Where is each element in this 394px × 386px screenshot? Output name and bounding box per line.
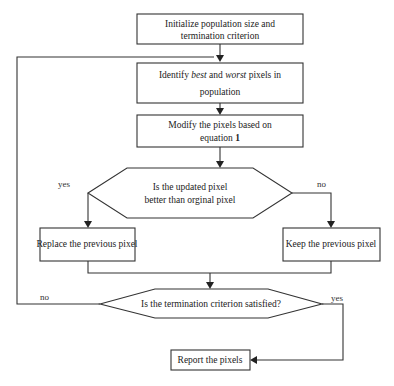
arrow-into-modify [216, 108, 224, 115]
node-replace-text: Replace the previous pixel [36, 239, 137, 249]
node-modify-line2: equation 1 [200, 133, 240, 143]
node-identify: Identify best and worst pixels in popula… [137, 63, 303, 103]
label-termination-no: no [40, 292, 50, 302]
edge-merge [88, 261, 331, 273]
arrow-into-keep [327, 221, 335, 228]
node-modify: Modify the pixels based on equation 1 [137, 115, 303, 147]
label-better-no: no [317, 179, 327, 189]
label-termination-yes: yes [331, 293, 343, 303]
node-identify-line2: population [200, 87, 241, 97]
node-identify-line1: Identify best and worst pixels in [159, 70, 281, 80]
node-initialize: Initialize population size and terminati… [137, 14, 303, 44]
node-decision-termination: Is the termination criterion satisfied? [100, 289, 322, 318]
arrow-into-report [250, 356, 257, 364]
node-decision-better-line1: Is the updated pixel [153, 182, 228, 192]
label-better-yes: yes [58, 179, 70, 189]
node-decision-better: Is the updated pixel better than orginal… [88, 168, 292, 218]
node-modify-line1: Modify the pixels based on [168, 120, 272, 130]
node-decision-termination-text: Is the termination criterion satisfied? [141, 299, 281, 309]
edge-better-no [292, 193, 331, 222]
node-initialize-line1: Initialize population size and [165, 19, 275, 29]
arrow-into-termination [206, 282, 214, 289]
node-initialize-line2: termination criterion [181, 31, 260, 41]
flowchart: Initialize population size and terminati… [0, 0, 394, 386]
node-keep: Keep the previous pixel [283, 228, 380, 261]
arrow-into-replace [84, 221, 92, 228]
arrow-into-decision-better [216, 161, 224, 168]
node-decision-better-line2: better than orginal pixel [145, 195, 236, 205]
node-report-text: Report the pixels [178, 355, 243, 365]
node-replace: Replace the previous pixel [36, 228, 137, 261]
arrow-into-identify [216, 55, 224, 62]
node-keep-text: Keep the previous pixel [286, 239, 377, 249]
node-report: Report the pixels [171, 350, 250, 370]
